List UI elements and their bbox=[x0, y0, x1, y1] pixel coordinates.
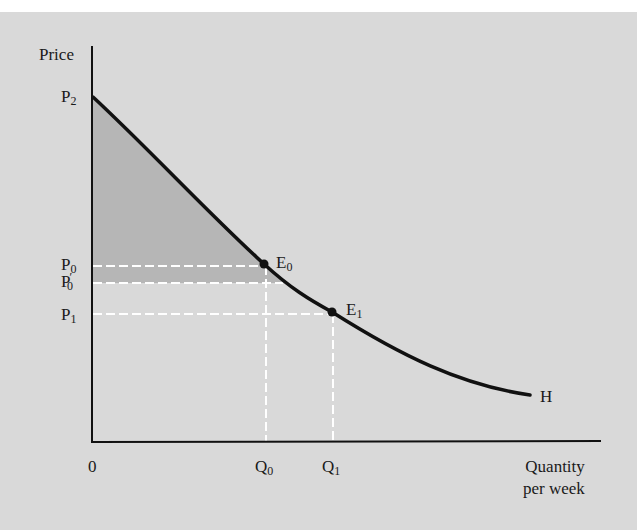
x-axis-label: Quantity per week bbox=[525, 456, 585, 500]
label-h: H bbox=[540, 388, 552, 405]
x-axis bbox=[91, 441, 601, 442]
chart-canvas bbox=[0, 0, 637, 530]
point-e0 bbox=[260, 260, 269, 269]
tick-q0: Q0 bbox=[255, 458, 273, 477]
point-e1 bbox=[328, 308, 337, 317]
label-e0: E0 bbox=[276, 254, 292, 273]
y-axis-label: Price bbox=[39, 46, 74, 63]
tick-origin: 0 bbox=[88, 458, 97, 475]
tick-q1: Q1 bbox=[322, 458, 340, 477]
tick-p1: P1 bbox=[61, 306, 76, 325]
label-e1: E1 bbox=[346, 301, 362, 320]
tick-p0-prime: P′0 bbox=[61, 273, 73, 292]
tick-p2: P2 bbox=[61, 88, 76, 107]
